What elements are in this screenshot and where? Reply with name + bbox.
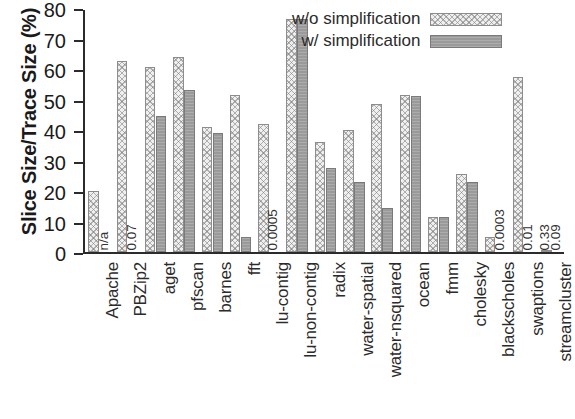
bar-group bbox=[226, 10, 254, 252]
y-axis-tick bbox=[74, 192, 83, 194]
x-axis-tick-label: fmm bbox=[444, 262, 461, 294]
legend-entry: w/ simplification bbox=[292, 30, 502, 52]
bar-without-simplification bbox=[428, 217, 439, 252]
bar-value-annotation: 0.0005 bbox=[266, 209, 280, 250]
bar-group: 0.07 bbox=[113, 10, 141, 252]
y-axis-tick-label: 70 bbox=[0, 31, 66, 51]
bar-group: n/a bbox=[85, 10, 113, 252]
bar-without-simplification bbox=[400, 95, 411, 252]
bar-with-simplification bbox=[156, 116, 167, 252]
bar-without-simplification bbox=[315, 142, 326, 252]
bar-group: 0.0005 bbox=[255, 10, 283, 252]
y-axis-tick bbox=[74, 253, 83, 255]
bar-group: 0.330.09 bbox=[538, 10, 566, 252]
bar-group bbox=[170, 10, 198, 252]
x-axis-tick-label: cholesky bbox=[472, 262, 489, 327]
legend-swatch bbox=[430, 13, 502, 26]
y-axis-tick bbox=[74, 70, 83, 72]
x-axis-tick-label: pfscan bbox=[189, 262, 206, 311]
bar-with-simplification bbox=[467, 182, 478, 252]
x-axis-tick-label: lu-contig bbox=[274, 262, 291, 324]
x-axis-tick-label: aget bbox=[161, 262, 178, 294]
y-axis-tick-label: 50 bbox=[0, 92, 66, 112]
bar-with-simplification bbox=[354, 182, 365, 252]
x-axis-tick-label: streamcluster bbox=[557, 262, 574, 361]
y-axis-tick-label: 0 bbox=[0, 244, 66, 264]
bar-without-simplification bbox=[145, 67, 156, 252]
y-axis-tick-label: 30 bbox=[0, 153, 66, 173]
x-axis-tick-label: radix bbox=[331, 262, 348, 298]
x-axis-tick-label: lu-non-contig bbox=[302, 262, 319, 358]
y-axis-tick-label: 20 bbox=[0, 183, 66, 203]
legend-label: w/ simplification bbox=[301, 31, 420, 51]
bar-without-simplification bbox=[202, 127, 213, 252]
x-axis-tick-label: blackscholes bbox=[500, 262, 517, 357]
bar-without-simplification bbox=[230, 95, 241, 252]
bar-without-simplification bbox=[371, 104, 382, 252]
x-axis-tick-label: fft bbox=[246, 262, 263, 275]
bar-with-simplification bbox=[411, 96, 422, 252]
bar-with-simplification bbox=[439, 217, 450, 252]
bar-with-simplification bbox=[184, 90, 195, 252]
legend-label: w/o simplification bbox=[292, 9, 421, 29]
y-axis-tick bbox=[74, 9, 83, 11]
y-axis-tick-label: 80 bbox=[0, 0, 66, 20]
x-axis-tick-label: swaptions bbox=[529, 262, 546, 336]
y-axis-tick-label: 10 bbox=[0, 214, 66, 234]
bar-without-simplification bbox=[343, 130, 354, 252]
bar-with-simplification bbox=[213, 133, 224, 252]
x-axis-tick-label: barnes bbox=[217, 262, 234, 313]
bar-group: 0.01 bbox=[509, 10, 537, 252]
bar-value-annotation: 0.07 bbox=[124, 224, 138, 250]
bar-group bbox=[142, 10, 170, 252]
bar-with-simplification bbox=[297, 19, 308, 252]
legend-swatch bbox=[430, 35, 502, 48]
chart-legend: w/o simplificationw/ simplification bbox=[292, 8, 502, 52]
y-axis-tick bbox=[74, 162, 83, 164]
bar-with-simplification bbox=[241, 237, 252, 252]
bar-with-simplification bbox=[326, 168, 337, 252]
y-axis-tick bbox=[74, 101, 83, 103]
x-axis-tick-label: ocean bbox=[415, 262, 432, 307]
bar-with-simplification bbox=[382, 208, 393, 252]
bar-value-annotation: 0.0003 bbox=[492, 209, 506, 250]
bar-without-simplification bbox=[173, 57, 184, 252]
x-axis-tick-label: Apache bbox=[104, 262, 121, 318]
y-axis-tick-label: 40 bbox=[0, 122, 66, 142]
bar-without-simplification bbox=[456, 174, 467, 252]
x-axis-tick-label: PBZip2 bbox=[132, 262, 149, 317]
y-axis-tick-label: 60 bbox=[0, 61, 66, 81]
bar-without-simplification bbox=[286, 19, 297, 252]
y-axis-tick bbox=[74, 131, 83, 133]
bar-value-annotation: n/a bbox=[96, 231, 110, 250]
bar-group bbox=[198, 10, 226, 252]
y-axis-tick bbox=[74, 223, 83, 225]
x-axis-tick-label: water-nsquared bbox=[387, 262, 404, 377]
y-axis-tick bbox=[74, 40, 83, 42]
bar-value-annotation: 0.01 bbox=[521, 224, 535, 250]
bar-value-annotation: 0.09 bbox=[549, 224, 563, 250]
x-axis-tick-label: water-spatial bbox=[359, 262, 376, 356]
legend-entry: w/o simplification bbox=[292, 8, 502, 30]
